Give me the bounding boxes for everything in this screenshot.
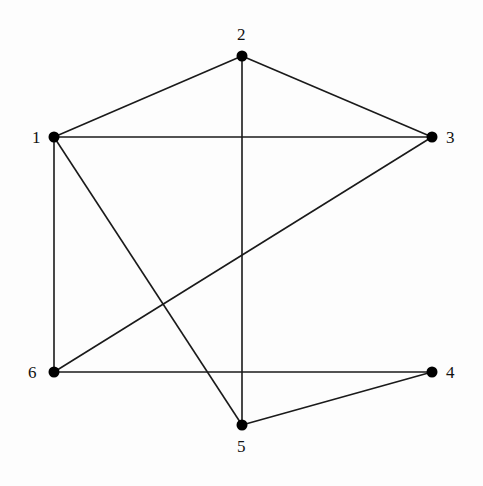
edge-3-6 [54, 137, 432, 372]
node-label-4: 4 [446, 363, 455, 382]
edge-2-3 [242, 56, 432, 137]
node-label-5: 5 [237, 437, 246, 456]
graph-diagram: 123456 [0, 0, 483, 486]
node-2 [237, 51, 248, 62]
node-label-1: 1 [32, 128, 41, 147]
edge-1-2 [54, 56, 242, 137]
edges-group [54, 56, 432, 425]
node-4 [427, 367, 438, 378]
edge-5-4 [242, 372, 432, 425]
node-6 [49, 367, 60, 378]
node-label-6: 6 [28, 363, 37, 382]
edge-1-5 [54, 137, 242, 425]
node-label-2: 2 [237, 25, 246, 44]
node-label-3: 3 [446, 128, 455, 147]
nodes-group [49, 51, 438, 431]
graph-canvas: 123456 [0, 0, 483, 486]
node-1 [49, 132, 60, 143]
node-3 [427, 132, 438, 143]
node-5 [237, 420, 248, 431]
